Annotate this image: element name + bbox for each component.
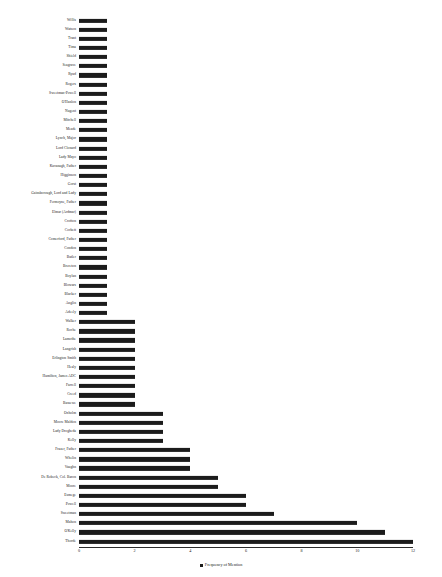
category-label: Frazer, Father: [55, 448, 76, 452]
bar-row: Tima: [79, 43, 413, 52]
category-label: O'Kelly: [64, 531, 76, 535]
bar-row: Moore: [79, 482, 413, 491]
bar-row: Meade: [79, 126, 413, 135]
category-label: Roche: [67, 330, 76, 334]
x-tick-label: 12: [411, 549, 415, 553]
bar-row: Oxholm: [79, 409, 413, 418]
bar-row: Adeely: [79, 309, 413, 318]
category-label: Higginson: [61, 174, 76, 178]
bar: [79, 539, 413, 543]
bar-row: Lady Mayo: [79, 153, 413, 162]
category-label: Gorst: [68, 183, 76, 187]
bar: [79, 311, 107, 315]
x-tick-label: 6: [245, 549, 247, 553]
legend-label: Frequency of Mention: [205, 563, 242, 567]
category-label: Butler: [67, 256, 76, 260]
category-label: Powell: [66, 503, 76, 507]
bar: [79, 430, 163, 434]
bar: [79, 375, 135, 379]
bar-row: Kavanagh, Father: [79, 162, 413, 171]
category-label: Bassewe: [63, 403, 76, 407]
bar: [79, 512, 274, 516]
bar-row: Willis: [79, 16, 413, 25]
bar-row: Walker: [79, 318, 413, 327]
bar: [79, 156, 107, 160]
bar-row: Thorde: [79, 537, 413, 546]
category-label: Erlington Smith: [52, 357, 76, 361]
category-label: Hamilton, James ADC: [43, 375, 76, 379]
category-label: Rogers: [66, 83, 76, 87]
bar: [79, 46, 107, 50]
bar-row: Kelly: [79, 436, 413, 445]
bar-row: Gainsborough, Lord and Lady: [79, 190, 413, 199]
x-tick-label: 10: [355, 549, 359, 553]
category-label: Adeely: [65, 311, 76, 315]
category-label: Anglin: [66, 302, 76, 306]
category-label: O'Hanlon: [62, 101, 76, 105]
bar-row: Sweetman-Powell: [79, 89, 413, 98]
bar: [79, 412, 163, 416]
bar: [79, 128, 107, 132]
bar: [79, 494, 246, 498]
chart-legend: Frequency of Mention: [0, 563, 442, 567]
bar: [79, 18, 107, 22]
x-tick-label: 2: [134, 549, 136, 553]
bar-row: Watson: [79, 25, 413, 34]
bar-row: Mahon: [79, 519, 413, 528]
bar-row: Farrell: [79, 382, 413, 391]
bar-row: Frazer, Father: [79, 446, 413, 455]
category-label: Elmar (Ardmar): [52, 211, 76, 215]
category-label: Vaughn: [65, 467, 76, 471]
bar: [79, 28, 107, 32]
bar-row: Trant: [79, 34, 413, 43]
bar: [79, 256, 107, 260]
bar: [79, 521, 357, 525]
bar-row: Lady Drogheda: [79, 427, 413, 436]
bar: [79, 448, 190, 452]
category-label: Trant: [68, 37, 76, 41]
bar-row: Brereton: [79, 263, 413, 272]
bar: [79, 402, 135, 406]
bar-row: Vaughn: [79, 464, 413, 473]
bar: [79, 265, 107, 269]
category-label: Blowars: [64, 284, 76, 288]
category-label: Creed: [67, 394, 76, 398]
bar-row: Lamothe: [79, 336, 413, 345]
category-label: Gainsborough, Lord and Lady: [31, 192, 76, 196]
bar-row: Lynch, Major: [79, 135, 413, 144]
x-tick-label: 8: [301, 549, 303, 553]
category-label: Sweetman-Powell: [49, 92, 76, 96]
category-label: Langrish: [63, 348, 76, 352]
bar: [79, 201, 107, 205]
bar: [79, 439, 163, 443]
bar: [79, 64, 107, 68]
bar-row: Elmar (Ardmar): [79, 208, 413, 217]
bar-row: O'Hanlon: [79, 98, 413, 107]
category-label: Lord Clonard: [56, 147, 76, 151]
bar: [79, 274, 107, 278]
category-label: Tima: [68, 46, 76, 50]
bar: [79, 192, 107, 196]
bar-row: Blowars: [79, 281, 413, 290]
category-label: Crofton: [64, 220, 76, 224]
category-label: Blacker: [64, 293, 76, 297]
category-label: Mitchell: [63, 119, 76, 123]
bar: [79, 119, 107, 123]
bar: [79, 284, 107, 288]
bar: [79, 238, 107, 242]
bar: [79, 55, 107, 59]
bar-row: Creed: [79, 391, 413, 400]
bar: [79, 146, 107, 150]
bar: [79, 357, 135, 361]
x-axis-tick-labels: 024681012: [79, 549, 413, 561]
bar: [79, 210, 107, 214]
bar: [79, 37, 107, 41]
bar: [79, 183, 107, 187]
category-label: Moore: [66, 485, 76, 489]
bar: [79, 530, 385, 534]
category-label: Seagrave: [62, 64, 76, 68]
bar-row: Moore Maldon: [79, 418, 413, 427]
bar-row: Bassewe: [79, 400, 413, 409]
bar: [79, 101, 107, 105]
bar: [79, 165, 107, 169]
